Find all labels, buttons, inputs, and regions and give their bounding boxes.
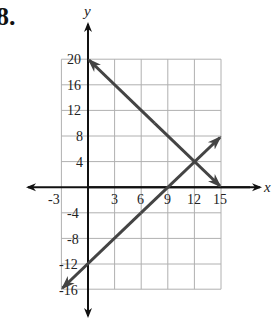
x-tick-labels: -3 3 6 9 12 15 (48, 192, 227, 207)
coordinate-plane: y x -3 3 6 9 12 15 20 16 12 8 4 -4 -8 -1… (0, 0, 272, 319)
svg-text:8: 8 (76, 129, 83, 144)
y-tick-labels: 20 16 12 8 4 -4 -8 -12 -16 (59, 52, 83, 298)
decreasing-line (89, 60, 155, 123)
svg-text:-3: -3 (48, 192, 60, 207)
svg-text:6: 6 (137, 192, 144, 207)
increasing-line (63, 213, 142, 288)
y-axis-label: y (82, 3, 91, 19)
svg-text:-4: -4 (67, 206, 79, 221)
axes (28, 24, 260, 316)
svg-text:-12: -12 (59, 257, 78, 272)
grid (61, 59, 221, 289)
svg-text:-16: -16 (59, 283, 78, 298)
x-axis-label: x (263, 179, 271, 195)
svg-text:9: 9 (164, 192, 171, 207)
svg-text:12: 12 (187, 192, 201, 207)
svg-text:4: 4 (76, 155, 83, 170)
decreasing-line-end (155, 123, 221, 186)
svg-text:12: 12 (67, 103, 81, 118)
svg-text:20: 20 (67, 52, 81, 67)
svg-text:3: 3 (111, 192, 118, 207)
svg-text:15: 15 (213, 192, 227, 207)
svg-text:-8: -8 (67, 232, 79, 247)
svg-text:16: 16 (67, 78, 81, 93)
